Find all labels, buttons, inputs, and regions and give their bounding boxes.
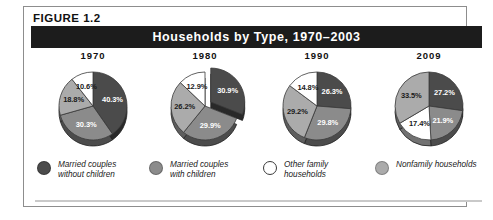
pie-graphic: 27.2%21.9%17.4%33.5%: [373, 64, 485, 152]
pie-chart-2009: 200927.2%21.9%17.4%33.5%: [373, 48, 485, 153]
pie-slice-value-label: 26.2%: [173, 102, 197, 111]
legend-item-married-couples-with-children: Married couples with children: [149, 160, 228, 180]
pie-slice-value-label: 33.5%: [399, 91, 423, 100]
pie-chart-row: 197040.3%30.3%18.8%10.6%198030.9%29.9%26…: [31, 48, 482, 153]
pie-slice-value-label: 29.8%: [316, 118, 340, 127]
chart-legend: Married couples without childrenMarried …: [31, 160, 482, 194]
pie-slice-value-label: 29.9%: [198, 121, 222, 130]
pie-slice-value-label: 17.4%: [407, 119, 431, 128]
pie-year-label: 1970: [37, 50, 149, 61]
pie-year-label: 1980: [149, 50, 261, 61]
legend-item-nonfamily-households: Nonfamily households: [375, 160, 477, 175]
pie-slice-value-label: 21.9%: [431, 116, 455, 125]
pie-graphic: 40.3%30.3%18.8%10.6%: [37, 64, 149, 152]
pie-slice-value-label: 29.2%: [285, 107, 309, 116]
pie-year-label: 2009: [373, 50, 485, 61]
pie-slice-value-label: 14.8%: [296, 83, 320, 92]
pie-chart-1980: 198030.9%29.9%26.2%12.9%: [149, 48, 261, 153]
legend-item-married-couples-without-children: Married couples without children: [37, 160, 116, 180]
chart-title: Households by Type, 1970–2003: [31, 26, 482, 48]
pie-graphic: 30.9%29.9%26.2%12.9%: [149, 64, 261, 152]
legend-label: Married couples with children: [170, 160, 228, 180]
legend-label: Other family households: [284, 160, 328, 180]
chart-title-bar: Households by Type, 1970–2003: [31, 26, 482, 48]
legend-swatch-icon: [375, 161, 389, 175]
pie-graphic: 26.3%29.8%29.2%14.8%: [261, 64, 373, 152]
pie-slice-value-label: 40.3%: [100, 95, 124, 104]
pie-slice-value-label: 30.3%: [74, 120, 98, 129]
legend-swatch-icon: [263, 161, 277, 175]
pie-slice-value-label: 12.9%: [185, 82, 209, 91]
chart-panel: 197040.3%30.3%18.8%10.6%198030.9%29.9%26…: [31, 48, 482, 200]
pie-slice-value-label: 10.6%: [74, 82, 98, 91]
legend-swatch-icon: [149, 161, 163, 175]
figure-root: FIGURE 1.2 Households by Type, 1970–2003…: [0, 0, 493, 220]
figure-number-label: FIGURE 1.2: [33, 12, 101, 24]
legend-swatch-icon: [37, 161, 51, 175]
legend-label: Married couples without children: [58, 160, 116, 180]
pie-chart-1970: 197040.3%30.3%18.8%10.6%: [37, 48, 149, 153]
legend-label: Nonfamily households: [396, 160, 477, 170]
pie-slice-value-label: 26.3%: [320, 87, 344, 96]
legend-item-other-family-households: Other family households: [263, 160, 328, 180]
pie-slice-value-label: 27.2%: [432, 88, 456, 97]
pie-chart-1990: 199026.3%29.8%29.2%14.8%: [261, 48, 373, 153]
pie-year-label: 1990: [261, 50, 373, 61]
pie-slice-value-label: 18.8%: [62, 95, 86, 104]
pie-slice-value-label: 30.9%: [216, 86, 240, 95]
